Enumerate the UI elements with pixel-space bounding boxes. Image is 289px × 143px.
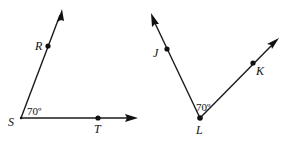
label-j: J	[153, 46, 159, 60]
arrowhead-icon	[57, 9, 64, 22]
label-r: R	[34, 39, 43, 53]
vertex-s	[20, 117, 22, 119]
angle-measure-l: 70º	[196, 101, 211, 113]
ray-lk	[200, 42, 275, 118]
point-t	[95, 115, 100, 120]
label-s: S	[8, 115, 14, 129]
arrowhead-icon	[151, 13, 159, 27]
point-r	[45, 43, 50, 48]
label-k: K	[255, 64, 265, 78]
angle-jlk: J K L 70º	[151, 13, 279, 137]
point-l	[197, 115, 203, 121]
point-j	[164, 46, 169, 51]
geometry-diagram: R S T 70º J K L 70º	[0, 0, 289, 143]
ray-sr	[21, 15, 60, 118]
label-t: T	[94, 122, 102, 136]
point-k	[250, 60, 255, 65]
label-l: L	[195, 123, 203, 137]
angle-measure-s: 70º	[27, 105, 42, 117]
ray-lj	[153, 19, 200, 118]
angle-rst: R S T 70º	[8, 9, 138, 136]
